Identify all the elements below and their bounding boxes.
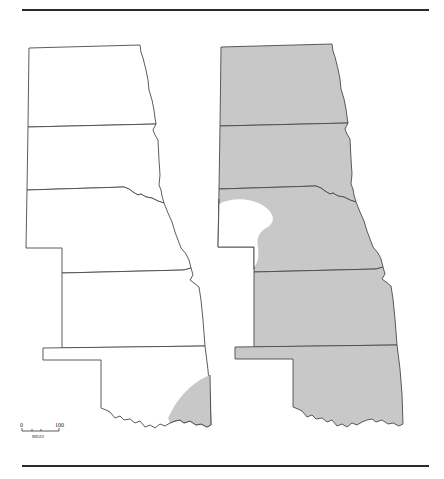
left-map (26, 45, 211, 428)
scale-units-label: MILES (32, 434, 44, 439)
right-map (218, 44, 403, 427)
right-north-dakota (220, 44, 348, 126)
scale-end-label: 100 (55, 422, 64, 428)
left-kansas (62, 268, 205, 348)
left-nebraska (26, 187, 191, 273)
map-figure: 0 100 MILES (0, 0, 444, 479)
right-oklahoma (235, 345, 403, 427)
left-north-dakota (28, 45, 156, 127)
scale-bar: 0 100 MILES (20, 422, 64, 439)
right-kansas (254, 267, 397, 347)
scale-start-label: 0 (20, 422, 23, 428)
